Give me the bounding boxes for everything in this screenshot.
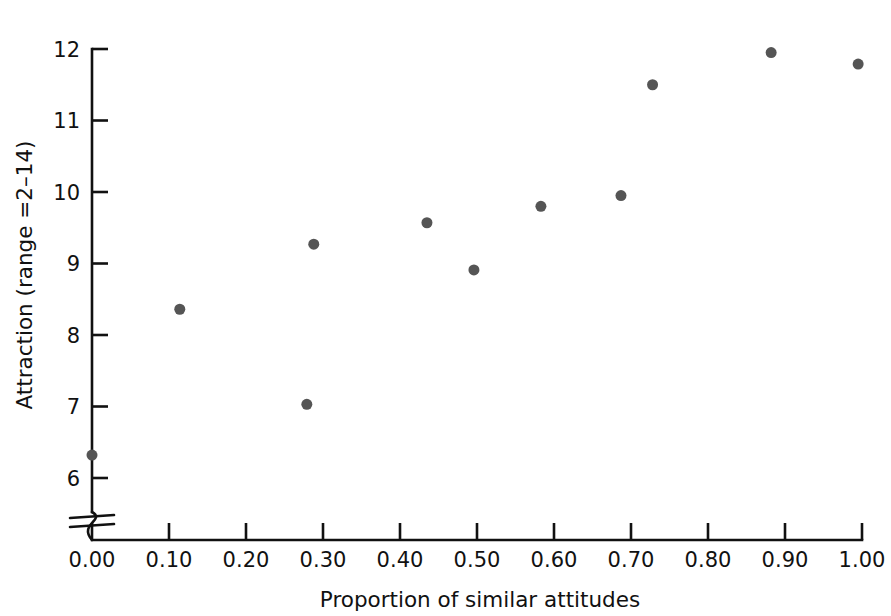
y-tick-label: 8 — [67, 324, 80, 348]
x-tick-label: 0.10 — [146, 548, 193, 572]
y-axis-title: Attraction (range =2–14) — [12, 141, 37, 410]
scatter-plot-figure: 6789101112 0.000.100.200.300.400.500.600… — [0, 0, 891, 616]
x-tick-label: 0.50 — [454, 548, 501, 572]
x-tick-label: 0.30 — [300, 548, 347, 572]
data-point — [87, 450, 98, 461]
y-tick-label: 11 — [53, 109, 80, 133]
data-point — [535, 201, 546, 212]
x-tick-label: 0.00 — [69, 548, 116, 572]
x-axis: 0.000.100.200.300.400.500.600.700.800.90… — [69, 523, 886, 572]
x-tick-label: 1.00 — [839, 548, 886, 572]
x-tick-label: 0.80 — [685, 548, 732, 572]
x-tick-label: 0.40 — [377, 548, 424, 572]
y-tick-label: 12 — [53, 38, 80, 62]
x-tick-label: 0.70 — [608, 548, 655, 572]
x-axis-title: Proportion of similar attitudes — [320, 587, 640, 612]
data-point — [766, 47, 777, 58]
y-tick-label: 6 — [67, 467, 80, 491]
break-slash-marks — [70, 515, 114, 527]
data-points — [87, 47, 864, 461]
data-point — [308, 239, 319, 250]
plot-canvas: 6789101112 0.000.100.200.300.400.500.600… — [0, 0, 891, 616]
x-tick-label: 0.20 — [223, 548, 270, 572]
y-tick-label: 7 — [67, 395, 80, 419]
x-tick-label: 0.60 — [531, 548, 578, 572]
y-axis: 6789101112 — [53, 38, 108, 513]
y-tick-label: 9 — [67, 252, 80, 276]
data-point — [853, 59, 864, 70]
data-point — [468, 264, 479, 275]
data-point — [421, 217, 432, 228]
x-tick-label: 0.90 — [762, 548, 809, 572]
data-point — [174, 304, 185, 315]
data-point — [647, 79, 658, 90]
data-point — [615, 190, 626, 201]
y-tick-label: 10 — [53, 181, 80, 205]
data-point — [301, 399, 312, 410]
